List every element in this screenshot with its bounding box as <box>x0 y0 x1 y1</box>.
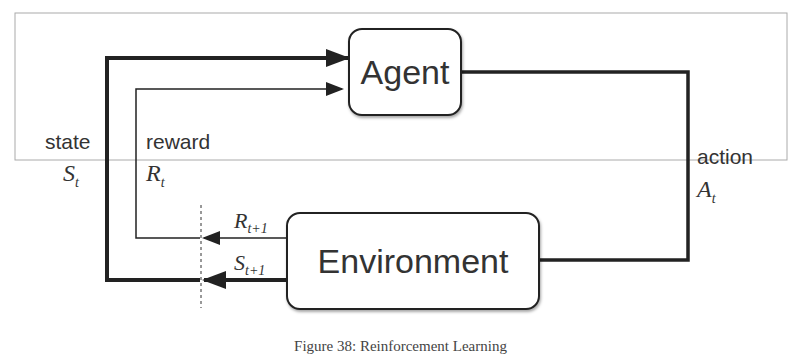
next-reward-symbol: Rt+1 <box>234 208 268 237</box>
environment-label: Environment <box>318 242 509 281</box>
next-state-symbol: St+1 <box>234 250 265 279</box>
figure-caption: Figure 38: Reinforcement Learning <box>0 338 801 355</box>
reward-label: reward <box>146 130 210 154</box>
environment-box: Environment <box>286 212 540 310</box>
state-symbol: St <box>63 160 79 191</box>
agent-box: Agent <box>348 28 462 116</box>
agent-label: Agent <box>361 53 450 92</box>
state-label: state <box>45 130 91 154</box>
action-symbol: At <box>697 176 716 207</box>
reward-symbol: Rt <box>146 160 165 191</box>
action-label: action <box>697 145 753 169</box>
